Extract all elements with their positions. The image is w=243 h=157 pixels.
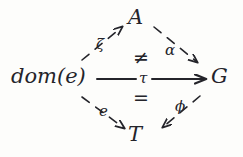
relation-symbol-not-equal: ≠ <box>133 48 149 67</box>
edge-alpha-arrow <box>154 27 197 62</box>
relation-symbol-equal: = <box>133 88 149 107</box>
edge-label-phi: ϕ <box>175 99 185 114</box>
commutative-diagram: A dom(e) G T ζ α e ϕ τ ≠ = <box>0 0 243 157</box>
node-a: A <box>128 7 143 28</box>
edge-label-tau: τ <box>139 71 147 86</box>
node-t: T <box>128 124 142 145</box>
node-dom-e: dom(e) <box>11 66 86 87</box>
edge-label-e: e <box>99 104 108 119</box>
node-g: G <box>211 66 228 87</box>
edge-label-alpha: α <box>165 43 175 58</box>
edge-label-zeta: ζ <box>96 37 104 52</box>
